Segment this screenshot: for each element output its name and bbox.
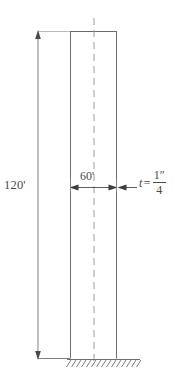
thickness-variable: t bbox=[139, 177, 142, 189]
extension-lines bbox=[38, 32, 71, 359]
height-label: 120' bbox=[4, 179, 26, 192]
thickness-equals-sign: = bbox=[144, 177, 151, 189]
thickness-label: t = 1″ 4 bbox=[139, 169, 166, 196]
thickness-leader bbox=[118, 184, 138, 190]
width-label: 60' bbox=[80, 170, 94, 182]
fixed-support bbox=[67, 360, 142, 368]
thickness-fraction: 1″ 4 bbox=[153, 169, 166, 196]
support-hatching bbox=[67, 360, 142, 367]
thickness-denominator: 4 bbox=[155, 183, 163, 196]
thickness-arrow bbox=[118, 184, 127, 190]
height-dimension bbox=[35, 30, 41, 360]
cantilever-column-diagram: 120' 60' t = 1″ 4 bbox=[0, 0, 174, 379]
thickness-numerator: 1″ bbox=[153, 169, 166, 182]
